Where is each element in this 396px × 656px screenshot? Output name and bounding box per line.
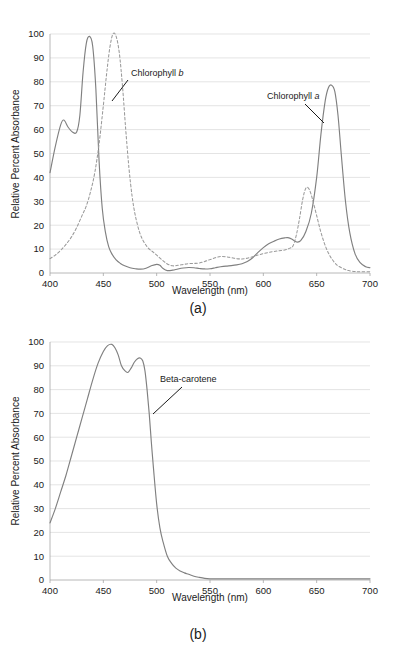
y-tick-90: 90 xyxy=(33,360,44,371)
y-tick-10: 10 xyxy=(33,243,44,254)
y-tick-30: 30 xyxy=(33,503,44,514)
panel-caption-a: (a) xyxy=(0,300,396,316)
y-tick-50: 50 xyxy=(33,455,44,466)
y-tick-60: 60 xyxy=(33,124,44,135)
absorbance-plot-a: 0102030405060708090100 40045050055060065… xyxy=(0,0,396,300)
absorbance-plot-b: 0102030405060708090100 40045050055060065… xyxy=(0,326,396,626)
y-tick-0: 0 xyxy=(39,574,44,585)
y-tick-100: 100 xyxy=(28,336,44,347)
y-tick-20: 20 xyxy=(33,220,44,231)
y-tick-20: 20 xyxy=(33,527,44,538)
annotations-a: Chlorophyll bChlorophyll a xyxy=(112,68,324,123)
y-tick-labels-b: 0102030405060708090100 xyxy=(28,336,44,585)
y-tick-90: 90 xyxy=(33,52,44,63)
x-tick-450: 450 xyxy=(95,585,111,596)
panel-caption-b: (b) xyxy=(0,626,396,642)
annotation-label-beta-carotene: Beta-carotene xyxy=(160,374,217,384)
x-axis-title-a: Wavelength (nm) xyxy=(172,285,248,296)
x-axis-title-b: Wavelength (nm) xyxy=(172,592,248,603)
series-line-chlorophyll-b xyxy=(50,33,370,272)
annotation-leader-beta-carotene xyxy=(153,387,182,414)
x-tick-650: 650 xyxy=(309,585,325,596)
y-tick-40: 40 xyxy=(33,172,44,183)
y-tick-100: 100 xyxy=(28,28,44,39)
x-tick-700: 700 xyxy=(362,278,378,289)
y-tick-60: 60 xyxy=(33,432,44,443)
x-tick-600: 600 xyxy=(255,278,271,289)
y-tick-0: 0 xyxy=(39,267,44,278)
y-axis-title-a: Relative Percent Absorbance xyxy=(10,89,21,218)
figure-panel-a: 0102030405060708090100 40045050055060065… xyxy=(0,0,396,330)
annotation-label-chlorophyll-b: Chlorophyll b xyxy=(131,68,184,78)
x-tick-600: 600 xyxy=(255,585,271,596)
y-tick-30: 30 xyxy=(33,196,44,207)
figure-panel-b: 0102030405060708090100 40045050055060065… xyxy=(0,326,396,656)
y-axis-title-b: Relative Percent Absorbance xyxy=(10,396,21,525)
x-tick-700: 700 xyxy=(362,585,378,596)
y-tick-70: 70 xyxy=(33,100,44,111)
x-tick-650: 650 xyxy=(309,278,325,289)
x-tick-400: 400 xyxy=(42,585,58,596)
y-tick-labels-a: 0102030405060708090100 xyxy=(28,28,44,278)
x-tick-450: 450 xyxy=(95,278,111,289)
annotation-leader-chlorophyll-b xyxy=(112,80,128,101)
y-tick-80: 80 xyxy=(33,384,44,395)
y-tick-70: 70 xyxy=(33,408,44,419)
y-tick-80: 80 xyxy=(33,76,44,87)
annotations-b: Beta-carotene xyxy=(153,374,217,414)
y-tick-40: 40 xyxy=(33,479,44,490)
x-tick-500: 500 xyxy=(149,585,165,596)
annotation-label-chlorophyll-a: Chlorophyll a xyxy=(267,91,320,101)
y-tick-50: 50 xyxy=(33,148,44,159)
series-group-a xyxy=(50,33,370,272)
x-tick-400: 400 xyxy=(42,278,58,289)
x-tick-500: 500 xyxy=(149,278,165,289)
y-tick-10: 10 xyxy=(33,551,44,562)
annotation-leader-chlorophyll-a xyxy=(305,104,324,123)
